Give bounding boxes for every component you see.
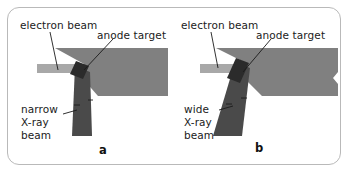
label-xray-beam-b-line3: beam <box>184 129 214 141</box>
label-electron-beam-a: electron beam <box>20 19 97 31</box>
panel-letter-a: a <box>99 143 107 157</box>
label-xray-beam-a-line2: X-ray <box>21 116 49 128</box>
label-electron-beam-b: electron beam <box>181 19 258 31</box>
label-xray-beam-a-line3: beam <box>21 129 51 141</box>
label-xray-beam-a-line1: narrow <box>21 103 58 115</box>
panel-a-graphics <box>37 32 168 136</box>
label-anode-target-a: anode target <box>97 29 166 41</box>
leader-electron-beam-b <box>211 32 218 68</box>
label-xray-beam-b-line1: wide <box>184 103 209 115</box>
panel-letter-b: b <box>255 141 263 155</box>
label-xray-beam-b-line2: X-ray <box>184 116 212 128</box>
label-anode-target-b: anode target <box>256 29 325 41</box>
figure-root: electron beam anode target narrow X-ray … <box>0 0 348 172</box>
panel-b-graphics <box>200 32 338 136</box>
